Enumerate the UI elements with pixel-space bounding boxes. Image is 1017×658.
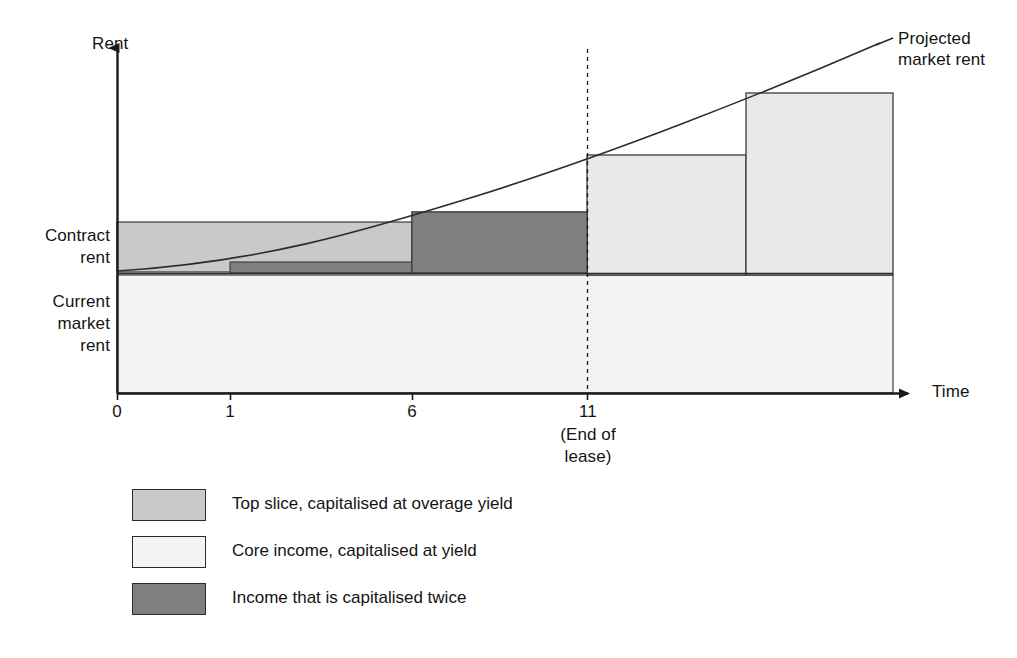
region-capitalised-twice-6-11 (412, 212, 587, 273)
projected-market-rent-label-line2: market rent (898, 49, 985, 70)
y-axis-label: Rent (92, 33, 128, 54)
contract-rent-label-line1: Contract (0, 225, 110, 246)
current-market-rent-label-line1: Current (0, 291, 110, 312)
region-core-income-step-2 (746, 93, 893, 275)
contract-rent-label-line2: rent (0, 247, 110, 268)
end-of-lease-label-line1: (End of (527, 424, 649, 445)
projected-market-rent-leader (876, 38, 893, 45)
legend-item-top-slice: Top slice, capitalised at overage yield (132, 489, 752, 536)
x-tick-label-1: 1 (210, 401, 250, 422)
legend-item-core-income: Core income, capitalised at yield (132, 536, 752, 583)
end-of-lease-label-line2: lease) (527, 446, 649, 467)
legend-swatch-capitalised-twice (132, 583, 206, 615)
region-current-market-rent (117, 275, 893, 393)
projected-market-rent-label-line1: Projected (898, 28, 971, 49)
chart-legend: Top slice, capitalised at overage yield … (132, 489, 752, 630)
legend-label-core-income: Core income, capitalised at yield (232, 540, 477, 562)
x-axis-label: Time (932, 381, 970, 402)
legend-swatch-top-slice (132, 489, 206, 521)
current-market-rent-label-line3: rent (0, 335, 110, 356)
x-tick-label-0: 0 (97, 401, 137, 422)
x-tick-label-11: 11 (567, 401, 609, 422)
current-market-rent-label-line2: market (0, 313, 110, 334)
legend-swatch-core-income (132, 536, 206, 568)
region-capitalised-twice-1-6 (230, 262, 412, 273)
legend-label-capitalised-twice: Income that is capitalised twice (232, 587, 466, 609)
legend-label-top-slice: Top slice, capitalised at overage yield (232, 493, 513, 515)
x-tick-label-6: 6 (392, 401, 432, 422)
legend-item-capitalised-twice: Income that is capitalised twice (132, 583, 752, 630)
region-core-income-step-1 (587, 155, 746, 275)
chart-figure: Rent Time Projected market rent Contract… (0, 0, 1017, 658)
